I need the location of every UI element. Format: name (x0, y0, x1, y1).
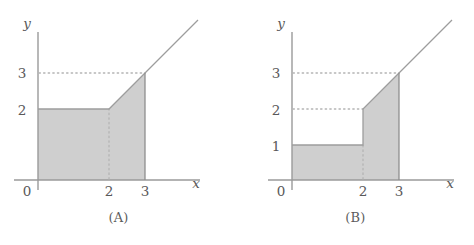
panel-caption-a: (A) (0, 210, 237, 225)
y-tick-label-3-a: 3 (18, 65, 27, 81)
x-tick-label-0-b: 0 (277, 183, 286, 199)
x-axis-label-a: x (192, 175, 200, 191)
x-tick-label-2-a: 2 (105, 183, 114, 199)
y-axis-label-b: y (276, 15, 285, 31)
x-axis-label-b: x (446, 175, 454, 191)
x-tick-label-3-a: 3 (141, 183, 150, 199)
y-tick-label-1-b: 1 (272, 138, 281, 154)
y-tick-label-2-a: 2 (18, 102, 27, 118)
function-curve-a (38, 20, 198, 109)
x-tick-label-3-b: 3 (395, 183, 404, 199)
panel-b-plot: 3 2 1 0 2 3 x y (237, 0, 474, 210)
figure-root: 3 2 0 2 3 x y (A) (0, 0, 474, 245)
panel-b: 3 2 1 0 2 3 x y (B) (237, 0, 474, 245)
x-tick-label-2-b: 2 (359, 183, 368, 199)
y-tick-label-2-b: 2 (272, 102, 281, 118)
panel-a: 3 2 0 2 3 x y (A) (0, 0, 237, 245)
x-tick-label-0-a: 0 (23, 183, 32, 199)
y-tick-label-3-b: 3 (272, 65, 281, 81)
panel-a-plot: 3 2 0 2 3 x y (0, 0, 237, 210)
panel-caption-b: (B) (237, 210, 474, 225)
y-axis-label-a: y (22, 15, 31, 31)
